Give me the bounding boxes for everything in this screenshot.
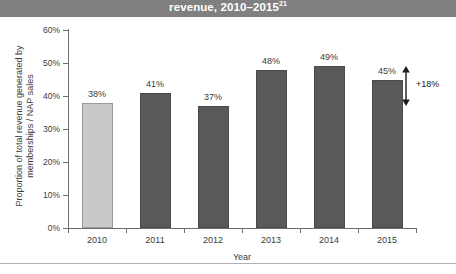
bar-value-label-2010: 38% [69, 90, 125, 99]
x-tick-mark [68, 228, 69, 233]
bottom-divider [0, 263, 456, 264]
x-tick-label: 2010 [69, 236, 125, 245]
y-tick-mark [63, 63, 68, 64]
y-tick-label: 60% [20, 26, 60, 35]
y-tick-label: 10% [20, 191, 60, 200]
double-arrow-icon [398, 66, 414, 106]
chart-figure: revenue, 2010–201521 Proportion of total… [0, 0, 456, 274]
y-tick-label: 50% [20, 59, 60, 68]
x-tick-mark [358, 228, 359, 233]
x-tick-mark [126, 228, 127, 233]
y-tick-mark [63, 162, 68, 163]
y-tick-label: 30% [20, 125, 60, 134]
x-tick-label: 2014 [301, 236, 357, 245]
delta-annotation: +18% [398, 66, 456, 106]
y-tick-label: 40% [20, 92, 60, 101]
bar-value-label-2013: 48% [243, 57, 299, 66]
x-axis-title: Year [68, 252, 416, 262]
bar-2013[interactable] [256, 70, 287, 228]
y-tick-label: 20% [20, 158, 60, 167]
x-tick-mark [416, 228, 417, 233]
x-tick-label: 2015 [359, 236, 415, 245]
x-tick-label: 2011 [127, 236, 183, 245]
bar-2014[interactable] [314, 66, 345, 228]
y-tick-mark [63, 129, 68, 130]
x-tick-mark [300, 228, 301, 233]
x-tick-label: 2013 [243, 236, 299, 245]
bar-value-label-2014: 49% [301, 53, 357, 62]
bar-value-label-2011: 41% [127, 80, 183, 89]
bar-value-label-2012: 37% [185, 93, 241, 102]
bar-2011[interactable] [140, 93, 171, 228]
y-axis-line [68, 29, 69, 229]
x-tick-mark [242, 228, 243, 233]
bar-2010[interactable] [82, 103, 113, 228]
y-tick-mark [63, 30, 68, 31]
bar-2012[interactable] [198, 106, 229, 228]
y-tick-label: 0% [20, 224, 60, 233]
x-tick-label: 2012 [185, 236, 241, 245]
plot-area: Proportion of total revenue generated by… [0, 0, 456, 274]
y-tick-mark [63, 96, 68, 97]
y-tick-mark [63, 195, 68, 196]
x-tick-mark [184, 228, 185, 233]
delta-label: +18% [416, 79, 439, 89]
